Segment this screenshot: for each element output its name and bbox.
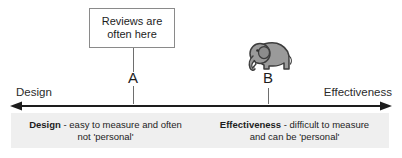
description-column-design: Design - easy to measure and often not '… bbox=[11, 113, 200, 148]
point-label-b: B bbox=[258, 70, 278, 86]
description-line-1: Effectiveness - difficult to measure bbox=[220, 119, 369, 131]
point-label-a: A bbox=[123, 70, 143, 86]
description-band: Design - easy to measure and often not '… bbox=[11, 113, 389, 148]
callout-box: Reviews are often here bbox=[89, 8, 175, 48]
description-line-2: and can be 'personal' bbox=[250, 131, 340, 143]
description-rest-effectiveness: - difficult to measure bbox=[281, 119, 369, 130]
description-line-1: Design - easy to measure and often bbox=[29, 119, 182, 131]
description-term-design: Design bbox=[29, 119, 61, 130]
description-rest-design: - easy to measure and often bbox=[61, 119, 182, 130]
description-term-effectiveness: Effectiveness bbox=[220, 119, 281, 130]
diagram-canvas: Reviews are often here A B Design Effect… bbox=[0, 0, 402, 158]
axis-label-design: Design bbox=[16, 86, 52, 98]
description-column-effectiveness: Effectiveness - difficult to measure and… bbox=[200, 113, 389, 148]
callout-line-1: Reviews are bbox=[102, 15, 163, 28]
axis-label-effectiveness: Effectiveness bbox=[324, 86, 392, 98]
spectrum-axis bbox=[10, 98, 392, 110]
callout-line-2: often here bbox=[107, 28, 157, 41]
description-line-2: not 'personal' bbox=[78, 131, 134, 143]
